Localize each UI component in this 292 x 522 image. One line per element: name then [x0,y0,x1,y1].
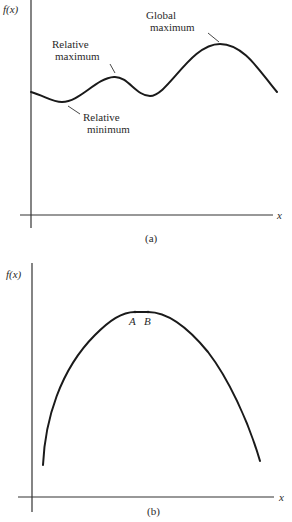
label-relative-max-line1: Relative [52,38,89,50]
point-b-marker [147,311,150,314]
label-relative-min-line2: minimum [87,123,130,135]
label-global-max-line1: Global [146,9,176,21]
y-axis-label-b: f(x) [6,268,22,281]
arrow-relative-max-icon [110,64,115,73]
point-a-label: A [128,315,136,327]
x-axis-label-b: x [278,491,284,503]
curve-b [43,312,260,465]
caption-b: (b) [147,505,160,518]
label-global-max-line2: maximum [150,21,195,33]
label-relative-max-line2: maximum [55,50,100,62]
figure: f(x) x Global maximum Relative maximum R… [0,0,292,522]
arrow-relative-min-icon [68,106,80,114]
panel-b: f(x) x A B (b) [6,263,284,518]
y-axis-label-a: f(x) [3,3,19,16]
point-a-marker [134,311,137,314]
point-b-label: B [144,315,151,327]
label-relative-min-line1: Relative [83,111,120,123]
arrow-global-max-icon [208,33,219,42]
caption-a: (a) [145,232,158,245]
panel-a: f(x) x Global maximum Relative maximum R… [3,0,282,245]
x-axis-label-a: x [276,209,282,221]
